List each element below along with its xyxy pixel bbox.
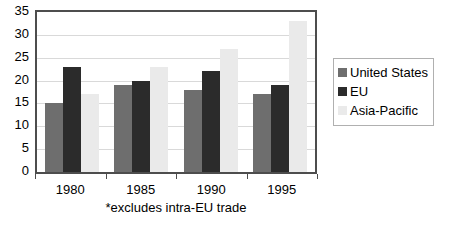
legend-label: EU	[350, 85, 368, 98]
legend-swatch-icon	[338, 87, 347, 96]
y-axis: 35302520151050	[0, 8, 32, 176]
bar-chart: 35302520151050 1980198519901995 *exclude…	[0, 0, 450, 239]
footnote: *excludes intra-EU trade	[35, 200, 317, 215]
y-tick-label: 5	[22, 141, 29, 154]
y-tick-label: 20	[15, 72, 29, 85]
y-tick-label: 35	[15, 4, 29, 17]
legend-label: Asia-Pacific	[350, 104, 418, 117]
bar-group	[37, 12, 107, 172]
y-tick-label: 30	[15, 26, 29, 39]
x-axis-label: 1995	[247, 182, 318, 197]
plot-area	[35, 10, 317, 174]
legend-item: EU	[338, 82, 428, 101]
bar	[63, 67, 81, 172]
bar-group	[176, 12, 246, 172]
bar	[220, 49, 238, 172]
chart-legend: United StatesEUAsia-Pacific	[333, 58, 434, 126]
x-tick-mark	[247, 174, 248, 179]
bar-group	[246, 12, 316, 172]
y-tick-label: 0	[22, 164, 29, 177]
x-tick-mark	[176, 174, 177, 179]
bar	[81, 94, 99, 172]
x-axis-label: 1980	[35, 182, 106, 197]
y-tick-label: 15	[15, 95, 29, 108]
x-tick-mark	[106, 174, 107, 179]
y-tick-label: 25	[15, 49, 29, 62]
x-axis-label: 1985	[106, 182, 177, 197]
legend-label: United States	[350, 66, 428, 79]
bar	[45, 103, 63, 172]
x-axis-label: 1990	[176, 182, 247, 197]
legend-item: United States	[338, 63, 428, 82]
legend-swatch-icon	[338, 68, 347, 77]
bar	[202, 71, 220, 172]
x-axis-labels: 1980198519901995	[35, 182, 317, 197]
y-tick-label: 10	[15, 118, 29, 131]
x-tick-mark	[35, 174, 36, 179]
bar	[150, 67, 168, 172]
legend-item: Asia-Pacific	[338, 101, 428, 120]
bar	[114, 85, 132, 172]
bar	[132, 81, 150, 172]
bar	[289, 21, 307, 172]
bar	[253, 94, 271, 172]
bars-layer	[37, 12, 315, 172]
x-tick-mark	[317, 174, 318, 179]
legend-swatch-icon	[338, 106, 347, 115]
bar	[184, 90, 202, 172]
bar	[271, 85, 289, 172]
bar-group	[107, 12, 177, 172]
